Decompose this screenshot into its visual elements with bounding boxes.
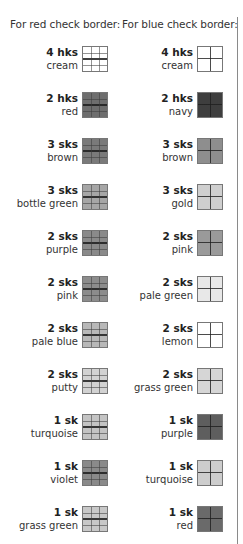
yarn-item: 2 skslemon <box>113 322 225 349</box>
yarn-item: 2 sksgrass green <box>113 368 225 395</box>
yarn-swatch <box>82 414 108 440</box>
yarn-quantity: 3 sks <box>162 138 193 151</box>
yarn-color: cream <box>46 59 78 72</box>
yarn-color: pale blue <box>32 335 78 348</box>
yarn-color: grass green <box>134 381 193 394</box>
yarn-quantity: 1 sk <box>169 506 193 519</box>
yarn-quantity: 4 hks <box>46 46 78 59</box>
yarn-swatch <box>82 184 108 210</box>
yarn-item: 2 hksnavy <box>113 92 225 119</box>
yarn-quantity: 3 sks <box>17 184 78 197</box>
yarn-item: 1 skviolet <box>0 460 110 487</box>
yarn-swatch <box>82 276 108 302</box>
red-border-heading: For red check border: <box>10 18 120 30</box>
yarn-item: 2 sksputty <box>0 368 110 395</box>
yarn-swatch <box>197 184 223 210</box>
yarn-swatch <box>82 506 108 532</box>
yarn-color: pale green <box>140 289 193 302</box>
yarn-swatch <box>197 46 223 72</box>
yarn-color: gold <box>163 197 193 210</box>
yarn-color: navy <box>161 105 193 118</box>
yarn-color: brown <box>47 151 78 164</box>
yarn-quantity: 2 sks <box>48 368 78 381</box>
yarn-item: 2 skspurple <box>0 230 110 257</box>
yarn-color: violet <box>50 473 78 486</box>
yarn-quantity: 2 hks <box>161 92 193 105</box>
yarn-item: 1 skred <box>113 506 225 533</box>
yarn-color: cream <box>161 59 193 72</box>
yarn-swatch <box>197 92 223 118</box>
yarn-item: 2 skspale blue <box>0 322 110 349</box>
yarn-quantity: 3 sks <box>163 184 193 197</box>
yarn-item: 1 skturquoise <box>0 414 110 441</box>
yarn-color: red <box>169 519 193 532</box>
yarn-color: purple <box>46 243 78 256</box>
yarn-swatch <box>197 414 223 440</box>
yarn-swatch <box>82 460 108 486</box>
yarn-quantity: 2 sks <box>134 368 193 381</box>
yarn-swatch <box>197 230 223 256</box>
yarn-swatch <box>197 138 223 164</box>
yarn-swatch <box>82 92 108 118</box>
yarn-item: 3 sksbottle green <box>0 184 110 211</box>
yarn-item: 4 hkscream <box>0 46 110 73</box>
yarn-color: grass green <box>19 519 78 532</box>
yarn-item: 2 skspink <box>113 230 225 257</box>
yarn-swatch <box>82 138 108 164</box>
yarn-color: putty <box>48 381 78 394</box>
yarn-item: 3 sksbrown <box>113 138 225 165</box>
yarn-item: 3 sksgold <box>113 184 225 211</box>
yarn-quantity: 4 hks <box>161 46 193 59</box>
yarn-quantity: 2 sks <box>48 276 78 289</box>
yarn-quantity: 2 sks <box>32 322 78 335</box>
yarn-quantity: 3 sks <box>47 138 78 151</box>
blue-border-yarn-list: 4 hkscream 2 hksnavy 3 sksbrown 3 sksgol… <box>113 46 225 544</box>
yarn-quantity: 2 sks <box>140 276 193 289</box>
yarn-swatch <box>197 322 223 348</box>
yarn-color: lemon <box>162 335 193 348</box>
yarn-quantity: 2 sks <box>163 230 193 243</box>
yarn-quantity: 2 hks <box>46 92 78 105</box>
yarn-color: pink <box>163 243 193 256</box>
yarn-swatch <box>197 276 223 302</box>
yarn-quantity: 1 sk <box>19 506 78 519</box>
yarn-item: 1 skturquoise <box>113 460 225 487</box>
yarn-quantity: 1 sk <box>50 460 78 473</box>
yarn-quantity: 2 sks <box>46 230 78 243</box>
yarn-quantity: 2 sks <box>162 322 193 335</box>
yarn-item: 1 skpurple <box>113 414 225 441</box>
yarn-quantity: 1 sk <box>31 414 78 427</box>
yarn-swatch <box>82 230 108 256</box>
yarn-item: 3 sksbrown <box>0 138 110 165</box>
yarn-swatch <box>197 368 223 394</box>
yarn-item: 2 hksred <box>0 92 110 119</box>
yarn-swatch <box>82 46 108 72</box>
yarn-color: pink <box>48 289 78 302</box>
yarn-color: red <box>46 105 78 118</box>
yarn-color: turquoise <box>31 427 78 440</box>
yarn-swatch <box>82 322 108 348</box>
yarn-color: brown <box>162 151 193 164</box>
yarn-item: 4 hkscream <box>113 46 225 73</box>
yarn-quantity: 1 sk <box>161 414 193 427</box>
yarn-color: purple <box>161 427 193 440</box>
yarn-item: 1 skgrass green <box>0 506 110 533</box>
yarn-color: bottle green <box>17 197 78 210</box>
yarn-item: 2 skspink <box>0 276 110 303</box>
yarn-quantity: 1 sk <box>146 460 193 473</box>
yarn-swatch <box>197 460 223 486</box>
yarn-color: turquoise <box>146 473 193 486</box>
yarn-item: 2 skspale green <box>113 276 225 303</box>
yarn-swatch <box>197 506 223 532</box>
column-divider <box>237 17 238 544</box>
blue-border-heading: For blue check border: <box>122 18 238 30</box>
yarn-swatch <box>82 368 108 394</box>
red-border-yarn-list: 4 hkscream 2 hksred 3 sksbrown 3 sksbott… <box>0 46 110 544</box>
